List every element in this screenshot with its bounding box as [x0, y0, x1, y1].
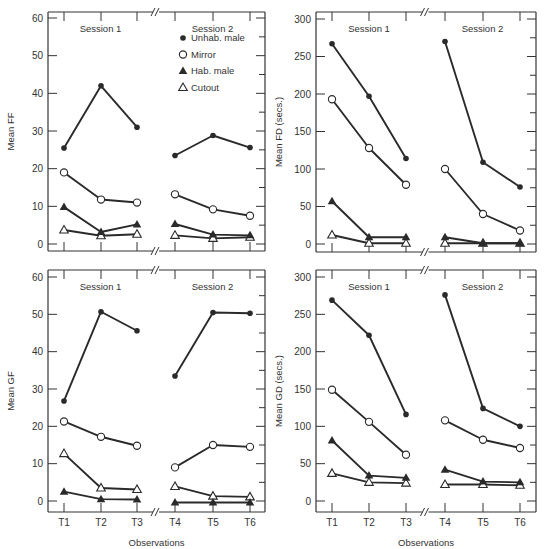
y-axis-label: Mean FF [5, 112, 16, 150]
legend: Unhab. maleMirrorHab. maleCutout [179, 32, 245, 93]
legend-label: Cutout [191, 82, 219, 93]
data-point [171, 482, 180, 490]
panel-mean-ff: 0102030405060Mean FFSession 1Session 2Un… [5, 8, 265, 255]
data-point [441, 417, 448, 424]
y-tick-label: 0 [305, 239, 311, 250]
series-cutout [328, 469, 525, 488]
data-point [98, 309, 104, 315]
data-point [328, 197, 337, 205]
data-point [442, 292, 448, 298]
data-point [247, 145, 253, 151]
data-point [329, 297, 335, 303]
data-point [210, 133, 216, 139]
data-point [517, 424, 523, 430]
data-point [328, 469, 337, 477]
series-cutout [60, 226, 255, 242]
filled-triangle-icon [179, 67, 188, 75]
series-unhab-male [61, 83, 253, 158]
data-point [328, 386, 335, 393]
series-mirror [60, 169, 253, 220]
y-tick-label: 0 [37, 239, 43, 250]
y-tick-label: 30 [32, 126, 44, 137]
data-point [60, 169, 67, 176]
x-tick-label: T1 [326, 517, 338, 528]
data-point [171, 464, 178, 471]
open-triangle-icon [179, 83, 188, 91]
x-tick-label: T5 [207, 517, 219, 528]
series-cutout [60, 449, 255, 500]
data-point [171, 220, 180, 228]
x-tick-label: T4 [169, 517, 181, 528]
data-point [328, 436, 337, 444]
data-point [442, 39, 448, 45]
legend-item: Unhab. male [180, 32, 245, 43]
data-point [210, 310, 216, 316]
data-point [479, 210, 486, 217]
y-tick-label: 0 [37, 496, 43, 507]
y-tick-label: 150 [294, 384, 311, 395]
x-tick-label: T3 [400, 517, 412, 528]
data-point [171, 231, 180, 239]
data-point [172, 153, 178, 159]
data-point [97, 433, 104, 440]
y-tick-label: 50 [300, 458, 312, 469]
data-point [441, 165, 448, 172]
open-circle-icon [179, 51, 186, 58]
y-axis-label: Mean GD (secs.) [273, 355, 284, 427]
data-point [403, 412, 409, 418]
series-mirror [328, 386, 523, 458]
y-tick-label: 0 [305, 496, 311, 507]
y-tick-label: 150 [294, 126, 311, 137]
legend-label: Unhab. male [191, 32, 245, 43]
y-tick-label: 30 [32, 384, 44, 395]
axes-frame [48, 270, 265, 512]
y-tick-label: 300 [294, 272, 311, 283]
y-tick-label: 100 [294, 421, 311, 432]
data-point [329, 41, 335, 47]
y-tick-label: 40 [32, 88, 44, 99]
session-1-label: Session 1 [348, 281, 390, 292]
series-hab-male [328, 436, 525, 485]
session-2-label: Session 2 [462, 23, 504, 34]
series-unhab-male [329, 292, 523, 429]
data-point [516, 444, 523, 451]
y-tick-label: 250 [294, 309, 311, 320]
data-point [209, 441, 216, 448]
y-tick-label: 10 [32, 458, 44, 469]
panel-mean-gd-secs: 050100150200250300T1T2T3T4T5T6Mean GD (s… [273, 266, 536, 548]
data-point [60, 226, 69, 234]
y-tick-label: 40 [32, 346, 44, 357]
data-point [441, 465, 450, 473]
y-tick-label: 50 [32, 309, 44, 320]
data-point [172, 373, 178, 379]
data-point [365, 144, 372, 151]
y-tick-label: 60 [32, 272, 44, 283]
data-point [479, 436, 486, 443]
data-point [517, 184, 523, 190]
x-tick-label: T6 [244, 517, 256, 528]
x-tick-label: T2 [95, 517, 107, 528]
y-tick-label: 10 [32, 201, 44, 212]
axes-frame [316, 12, 536, 252]
y-tick-label: 20 [32, 421, 44, 432]
figure: 0102030405060Mean FFSession 1Session 2Un… [0, 0, 547, 549]
data-point [247, 310, 253, 316]
y-tick-label: 200 [294, 346, 311, 357]
data-point [402, 181, 409, 188]
data-point [171, 191, 178, 198]
x-axis-label: Observations [129, 537, 185, 548]
data-point [133, 199, 140, 206]
session-1-label: Session 1 [80, 281, 122, 292]
x-tick-label: T4 [439, 517, 451, 528]
y-tick-label: 100 [294, 164, 311, 175]
data-point [60, 203, 69, 211]
data-point [60, 449, 69, 457]
data-point [98, 83, 104, 89]
y-tick-label: 250 [294, 51, 311, 62]
data-point [365, 418, 372, 425]
data-point [60, 418, 67, 425]
data-point [328, 96, 335, 103]
y-tick-label: 50 [300, 201, 312, 212]
data-point [97, 196, 104, 203]
data-point [403, 156, 409, 162]
